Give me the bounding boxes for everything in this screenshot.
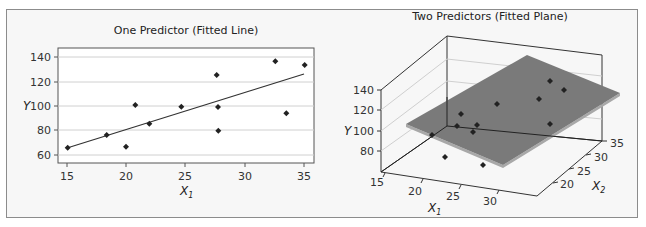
left-xtick-20: 20 xyxy=(119,170,133,183)
left-xtick-15: 15 xyxy=(60,170,74,183)
left-xtick-30: 30 xyxy=(238,170,252,183)
figure-svg: One Predictor (Fitted Line) 140 120 100 … xyxy=(0,0,646,227)
x2tick-30: 30 xyxy=(594,151,608,164)
x1-axis-label: X1 xyxy=(427,201,441,217)
right-chart-title: Two Predictors (Fitted Plane) xyxy=(411,10,568,23)
x1-ticks xyxy=(383,173,499,194)
ztick-80: 80 xyxy=(360,145,374,158)
x1tick-15: 15 xyxy=(370,176,384,189)
x2tick-35: 35 xyxy=(610,137,624,150)
left-xtick-25: 25 xyxy=(178,170,192,183)
z-axis-label: Y xyxy=(344,124,353,138)
x2-axis-label: X2 xyxy=(591,179,605,195)
x2tick-25: 25 xyxy=(577,165,591,178)
left-chart-title: One Predictor (Fitted Line) xyxy=(114,24,259,37)
left-y-ticks xyxy=(54,57,58,155)
ztick-120: 120 xyxy=(353,104,374,117)
left-chart: One Predictor (Fitted Line) 140 120 100 … xyxy=(23,24,314,200)
left-ytick-80: 80 xyxy=(37,124,51,137)
right-chart: Two Predictors (Fitted Plane) xyxy=(344,10,624,217)
data-point xyxy=(480,162,486,168)
data-point xyxy=(442,154,448,160)
x2tick-20: 20 xyxy=(560,178,574,191)
x1tick-30: 30 xyxy=(483,195,497,208)
ztick-100: 100 xyxy=(353,125,374,138)
left-ytick-60: 60 xyxy=(37,149,51,162)
left-x-ticks xyxy=(67,163,304,167)
left-ytick-120: 120 xyxy=(30,76,51,89)
x1tick-20: 20 xyxy=(408,185,422,198)
ztick-140: 140 xyxy=(353,84,374,97)
z-ticks xyxy=(377,90,381,151)
x1tick-25: 25 xyxy=(446,190,460,203)
left-ytick-140: 140 xyxy=(30,51,51,64)
left-ytick-100: 100 xyxy=(30,100,51,113)
fitted-plane xyxy=(406,55,620,165)
left-x-axis-label: X1 xyxy=(179,184,193,200)
left-xtick-35: 35 xyxy=(297,170,311,183)
